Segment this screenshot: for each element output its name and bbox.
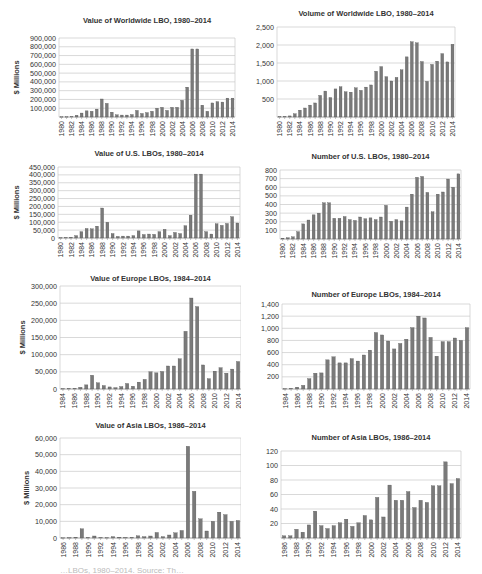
bar-1993 (114, 388, 117, 389)
x-tick-label: 2004 (182, 242, 189, 258)
bar-2001 (155, 533, 158, 539)
bar-1995 (354, 88, 357, 117)
bar-1994 (111, 537, 114, 538)
x-tick-label: 2004 (398, 121, 405, 137)
bar-2009 (210, 234, 213, 238)
bar-1984 (80, 232, 83, 238)
bar-1990 (86, 538, 89, 539)
x-tick-label: 1990 (109, 242, 116, 258)
y-tick-label: 600,000 (30, 60, 56, 69)
x-tick-label: 2000 (161, 242, 168, 258)
bar-1985 (304, 108, 307, 117)
bar-2003 (179, 234, 182, 238)
x-tick-label: 1986 (294, 393, 301, 409)
bar-2001 (385, 77, 388, 117)
x-tick-label: 2010 (209, 542, 216, 558)
x-tick-label: 1986 (71, 393, 78, 409)
bar-2003 (395, 77, 398, 117)
x-tick-label: 2012 (223, 393, 230, 409)
x-tick-label: 2010 (429, 121, 436, 137)
y-tick-label: 300,000 (31, 282, 57, 291)
bar-1985 (85, 229, 88, 238)
x-tick-label: 1990 (327, 121, 334, 137)
bar-2014 (236, 223, 239, 238)
bar-1990 (111, 234, 114, 238)
y-tick-label: 100 (266, 461, 278, 470)
bar-2002 (161, 537, 164, 538)
bar-1987 (79, 387, 82, 389)
bar-1993 (127, 236, 130, 238)
x-tick-label: 1988 (317, 121, 324, 137)
x-tick-label: 2004 (392, 542, 399, 558)
x-tick-label: 2008 (203, 242, 210, 258)
y-axis-label: $ Millions (22, 471, 31, 505)
bar-1985 (289, 388, 292, 389)
bar-2001 (168, 236, 171, 238)
x-tick-label: 2010 (209, 121, 216, 137)
bar-2004 (181, 100, 184, 117)
bar-2014 (451, 44, 454, 117)
bar-1991 (334, 89, 337, 117)
x-tick-label: 1984 (300, 243, 307, 259)
chart-eu-number: Number of Europe LBOs, 1984–201420040060… (241, 270, 482, 415)
bar-1998 (151, 111, 154, 117)
gridlines: 050,000100,000150,000200,000250,000300,0… (29, 163, 240, 243)
bar-2001 (161, 371, 164, 389)
bar-2000 (163, 229, 166, 238)
bar-2010 (431, 64, 434, 117)
bar-1986 (295, 387, 298, 389)
bar-1993 (338, 363, 341, 389)
y-tick-label: 400,000 (30, 77, 56, 86)
figure-caption-fragment: …LBOs, 1980–2014. Source: Th… (60, 566, 480, 574)
x-tick-label: 2008 (417, 542, 424, 558)
x-tick-label: 2002 (159, 542, 166, 558)
bar-2014 (465, 328, 468, 389)
y-tick-label: 100,000 (31, 350, 57, 359)
bar-2004 (184, 226, 187, 238)
y-tick-label: 400 (267, 360, 279, 369)
bar-2013 (231, 369, 234, 389)
y-tick-label: 0 (53, 534, 57, 543)
bar-1996 (360, 90, 363, 117)
x-tick-label: 1998 (372, 243, 379, 259)
bar-2001 (166, 110, 169, 117)
bar-1996 (131, 386, 134, 389)
bar-1982 (70, 237, 73, 238)
x-tick-label: 1982 (68, 242, 75, 258)
bar-1998 (357, 523, 360, 538)
chart-title: Value of Asia LBOs, 1986–2014 (95, 421, 206, 430)
bar-1991 (326, 360, 329, 389)
y-tick-label: 300,000 (29, 186, 55, 195)
bar-2004 (178, 359, 181, 389)
x-tick-label: 2012 (222, 542, 229, 558)
bar-1988 (308, 379, 311, 389)
y-tick-label: 150,000 (31, 333, 57, 342)
y-tick-label: 1,000 (261, 324, 279, 333)
bar-2009 (425, 502, 428, 538)
y-tick-label: 500,000 (30, 69, 56, 78)
bar-1997 (362, 355, 365, 389)
y-tick-label: 20 (270, 519, 278, 528)
chart-title: Value of U.S. LBOs, 1980–2014 (94, 149, 204, 158)
bar-2010 (431, 486, 434, 538)
bar-1987 (314, 103, 317, 117)
x-tick-labels: 1980198219841986198819901992199419961998… (57, 242, 241, 258)
bar-1988 (319, 95, 322, 117)
x-tick-label: 1988 (72, 542, 79, 558)
bar-2005 (411, 328, 414, 389)
y-tick-label: 900,000 (30, 34, 56, 43)
bar-1981 (286, 238, 289, 239)
x-tick-label: 2014 (455, 243, 462, 259)
x-tick-label: 1986 (88, 242, 95, 258)
x-tick-label: 2014 (234, 542, 241, 558)
x-tick-label: 1982 (286, 121, 293, 137)
y-tick-label: 40,000 (35, 467, 57, 476)
bar-1996 (141, 113, 144, 117)
bar-1999 (149, 372, 152, 389)
x-tick-labels: 1984198619881990199219941996199820002002… (59, 393, 241, 409)
bar-series (282, 462, 459, 540)
bar-2009 (205, 531, 208, 538)
x-tick-label: 1990 (85, 542, 92, 558)
chart-title: Number of Asia LBOs, 1986–2014 (312, 433, 432, 442)
bar-2002 (166, 366, 169, 389)
